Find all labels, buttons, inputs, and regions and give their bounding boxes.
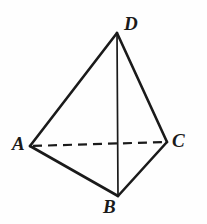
vertex-label-c: C (172, 131, 185, 150)
edge-d-b (117, 33, 118, 196)
edge-d-c (117, 33, 167, 142)
edge-d-a (30, 33, 117, 146)
edge-b-c (118, 142, 167, 196)
tetrahedron-figure: A B C D (0, 0, 207, 224)
vertex-label-a: A (12, 134, 25, 153)
tetrahedron-diagram (0, 0, 207, 224)
vertex-label-b: B (103, 197, 116, 216)
edge-a-b (30, 146, 118, 196)
edge-a-c-hidden (33, 142, 164, 146)
vertex-label-d: D (124, 14, 138, 33)
